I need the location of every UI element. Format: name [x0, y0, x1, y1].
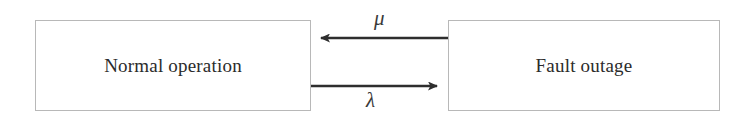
transition-label-lambda: λ — [366, 90, 375, 111]
transition-label-mu: μ — [374, 8, 385, 29]
state-label-normal-operation: Normal operation — [104, 56, 242, 75]
state-box-normal-operation: Normal operation — [35, 20, 311, 111]
state-label-fault-outage: Fault outage — [536, 56, 633, 75]
state-transition-diagram: Normal operation Fault outage μ λ — [0, 0, 749, 125]
state-box-fault-outage: Fault outage — [448, 20, 720, 111]
